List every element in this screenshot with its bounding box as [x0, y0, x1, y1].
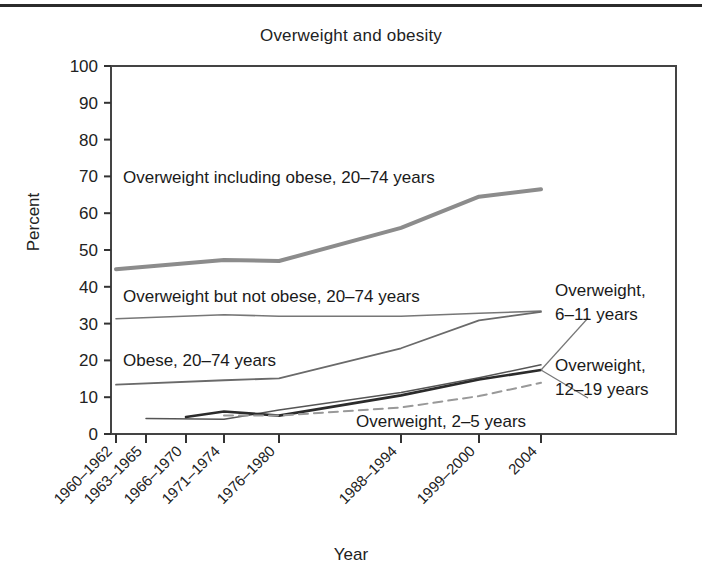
annotation-overweight-including-obese: Overweight including obese, 20–74 years [123, 168, 435, 187]
x-tick-label: 2004 [505, 442, 541, 478]
y-tick-label: 60 [79, 204, 98, 223]
series-line [116, 312, 541, 385]
plot-area: 100 90 80 70 60 50 40 30 20 10 0 1960–19… [0, 0, 702, 587]
annotation-overweight-6-11-line1: Overweight, [555, 281, 646, 300]
y-tick-label: 50 [79, 241, 98, 260]
y-tick-label: 70 [79, 167, 98, 186]
plot-frame [111, 66, 676, 434]
chart-figure: Overweight and obesity Percent Year 100 … [0, 0, 702, 587]
x-tick-label: 1976–1980 [213, 442, 278, 507]
annotation-overweight-2-5: Overweight, 2–5 years [356, 412, 526, 431]
annotation-overweight-12-19-line1: Overweight, [555, 356, 646, 375]
annotation-overweight-but-not-obese: Overweight but not obese, 20–74 years [123, 287, 420, 306]
y-tick-label: 90 [79, 94, 98, 113]
y-tick-label: 100 [70, 57, 98, 76]
y-axis-tick-labels: 100 90 80 70 60 50 40 30 20 10 0 [70, 57, 98, 444]
x-axis-ticks [116, 434, 541, 443]
annotation-obese: Obese, 20–74 years [123, 351, 276, 370]
x-axis-tick-labels: 1960–1962 1963–1965 1966–1970 1971–1974 … [50, 442, 540, 507]
y-tick-label: 30 [79, 315, 98, 334]
annotation-overweight-6-11-line2: 6–11 years [555, 305, 638, 324]
y-tick-label: 40 [79, 278, 98, 297]
series-line [116, 189, 541, 269]
annotation-overweight-12-19-line2: 12–19 years [555, 380, 649, 399]
y-tick-label: 0 [89, 425, 98, 444]
x-tick-label: 1999–2000 [413, 442, 478, 507]
y-tick-label: 80 [79, 131, 98, 150]
y-tick-label: 10 [79, 388, 98, 407]
x-tick-label: 1988–1994 [335, 442, 400, 507]
series-line [116, 311, 541, 319]
y-axis-ticks [104, 66, 111, 434]
y-tick-label: 20 [79, 351, 98, 370]
